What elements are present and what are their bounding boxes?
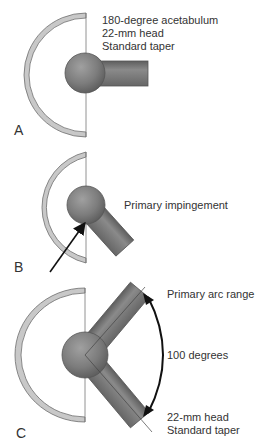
panel-b [42, 152, 134, 272]
femoral-stem-a [98, 61, 148, 86]
panel-letter-a: A [14, 122, 23, 138]
label-primary-arc-range: Primary arc range [167, 288, 254, 300]
label-taper-a: Standard taper [102, 40, 175, 52]
label-primary-impingement: Primary impingement [124, 199, 228, 211]
label-head-size-c: 22-mm head [167, 411, 229, 423]
femoral-head-a [65, 53, 105, 93]
label-taper-c: Standard taper [167, 424, 240, 436]
femoral-head-b [67, 186, 105, 224]
label-acetabulum: 180-degree acetabulum [102, 14, 218, 26]
label-head-size-a: 22-mm head [102, 27, 164, 39]
panel-c [15, 282, 163, 432]
panel-letter-b: B [14, 259, 23, 275]
label-arc-degrees: 100 degrees [167, 349, 228, 361]
hip-arc-diagram [0, 0, 263, 444]
arc-range-double-arrow [148, 297, 163, 413]
impingement-arrow [50, 227, 82, 272]
panel-letter-c: C [16, 425, 26, 441]
